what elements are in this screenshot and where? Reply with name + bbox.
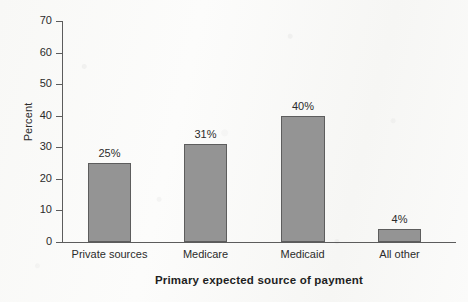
y-axis-title: Percent [22, 87, 34, 157]
bar-value-all-other: 4% [374, 214, 425, 225]
y-tick-label-10: 10 [24, 204, 52, 215]
y-tick-70: 70 [0, 21, 62, 22]
y-tick-label-0: 0 [24, 236, 52, 247]
y-tick-20: 20 [0, 179, 62, 180]
bar-value-medicaid: 40% [277, 101, 329, 112]
x-category-label-medicare: Medicare [160, 249, 251, 260]
y-tick-60: 60 [0, 53, 62, 54]
y-tick-label-60: 60 [24, 47, 52, 58]
bar-medicaid [281, 116, 325, 242]
bar-value-private-sources: 25% [84, 148, 135, 159]
bar-medicare [184, 144, 227, 242]
bar-chart-plot-area: 0 10 20 30 40 50 60 70 Percen [0, 0, 468, 302]
y-tick-0: 0 [0, 242, 62, 243]
bar-private-sources [88, 163, 131, 242]
y-tick-label-70: 70 [24, 15, 52, 26]
x-category-label-medicaid: Medicaid [257, 249, 348, 260]
x-category-label-private-sources: Private sources [62, 249, 157, 260]
y-tick-10: 10 [0, 210, 62, 211]
x-axis-line [62, 242, 456, 243]
chart-page: 0 10 20 30 40 50 60 70 Percen [0, 0, 468, 302]
y-tick-50: 50 [0, 84, 62, 85]
x-category-label-all-other: All other [354, 249, 445, 260]
x-axis-title: Primary expected source of payment [62, 274, 456, 286]
y-axis-line [62, 21, 63, 243]
bar-value-medicare: 31% [180, 129, 231, 140]
bar-all-other [378, 229, 421, 242]
y-tick-label-20: 20 [24, 173, 52, 184]
